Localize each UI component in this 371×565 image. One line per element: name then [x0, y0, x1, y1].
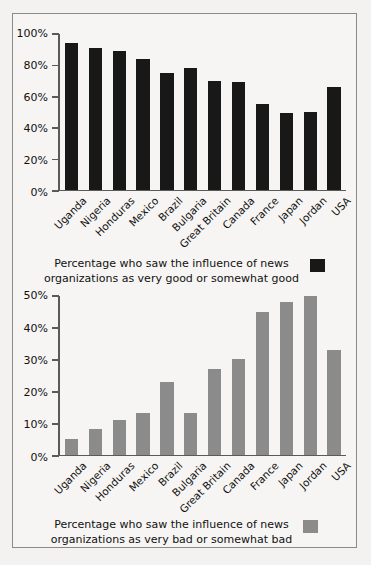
y-tick-label-bad-4: 40%: [24, 322, 48, 333]
y-tick-label-bad-3: 30%: [24, 354, 48, 365]
bar-good-uganda: [65, 43, 78, 189]
bar-slot: [83, 34, 107, 190]
y-tick-label-good-2: 40%: [24, 123, 48, 134]
legend-line2-bad: organizations as very bad or somewhat ba…: [51, 533, 293, 546]
legend-line1-good: Percentage who saw the influence of news: [54, 257, 289, 270]
legend-line2-good: organizations as very good or somewhat g…: [44, 272, 299, 285]
bar-good-jordan: [304, 112, 317, 190]
chart-panel-bad: 0%10%20%30%40%50% UgandaNigeriaHondurasM…: [13, 286, 356, 549]
bar-slot: [155, 296, 179, 455]
bar-slot: [131, 34, 155, 190]
y-tick-good-0: 0%: [52, 190, 59, 192]
bar-bad-france: [256, 312, 269, 455]
bar-slot: [203, 34, 227, 190]
bar-bad-uganda: [65, 439, 78, 455]
bar-slot: [251, 296, 275, 455]
legend-swatch-bad: [303, 520, 318, 533]
x-axis-line-bad: [58, 455, 346, 457]
y-tick-label-bad-5: 50%: [24, 290, 48, 301]
bar-good-great-britain: [208, 81, 221, 190]
x-tick-label-good-usa: USA: [329, 195, 352, 218]
y-tick-good-2: 40%: [52, 127, 59, 129]
y-tick-good-4: 80%: [52, 65, 59, 67]
bar-bad-nigeria: [89, 429, 102, 454]
bar-slot: [227, 34, 251, 190]
legend-bad: Percentage who saw the influence of news…: [13, 518, 356, 548]
bar-slot: [107, 34, 131, 190]
y-tick-label-bad-1: 10%: [24, 419, 48, 430]
bar-group-bad: [60, 296, 347, 455]
bar-slot: [203, 296, 227, 455]
chart-panel-good: 0%20%40%60%80%100% UgandaNigeriaHonduras…: [13, 14, 356, 286]
plot-area-bad: 0%10%20%30%40%50%: [58, 296, 346, 456]
bar-slot: [227, 296, 251, 455]
bar-bad-usa: [327, 350, 340, 455]
y-tick-bad-3: 30%: [52, 359, 59, 361]
bar-bad-japan: [280, 302, 293, 454]
bar-slot: [298, 296, 322, 455]
y-tick-good-3: 60%: [52, 96, 59, 98]
y-tick-bad-5: 50%: [52, 295, 59, 297]
figure-frame: 0%20%40%60%80%100% UgandaNigeriaHonduras…: [12, 13, 357, 548]
bar-slot: [60, 34, 84, 190]
y-tick-good-1: 20%: [52, 159, 59, 161]
bar-bad-jordan: [304, 296, 317, 455]
bar-slot: [155, 34, 179, 190]
bar-slot: [251, 34, 275, 190]
bar-slot: [179, 296, 203, 455]
y-tick-label-good-0: 0%: [31, 186, 48, 197]
bar-good-canada: [232, 82, 245, 189]
bar-slot: [179, 34, 203, 190]
bar-good-brazil: [160, 73, 173, 190]
bar-slot: [83, 296, 107, 455]
y-tick-bad-2: 20%: [52, 391, 59, 393]
legend-swatch-good: [310, 259, 325, 272]
x-axis-line-good: [58, 190, 346, 192]
bar-bad-great-britain: [208, 369, 221, 455]
bar-slot: [298, 34, 322, 190]
bar-bad-mexico: [136, 413, 149, 454]
legend-good: Percentage who saw the influence of news…: [13, 257, 356, 287]
plot-area-good: 0%20%40%60%80%100%: [58, 34, 346, 191]
y-tick-bad-1: 10%: [52, 423, 59, 425]
y-tick-label-good-3: 60%: [24, 91, 48, 102]
y-tick-label-good-1: 20%: [24, 155, 48, 166]
y-tick-bad-0: 0%: [52, 455, 59, 457]
bar-bad-canada: [232, 359, 245, 454]
bar-good-france: [256, 104, 269, 190]
x-tick-label-bad-usa: USA: [329, 460, 352, 483]
figure-container: 0%20%40%60%80%100% UgandaNigeriaHonduras…: [0, 0, 371, 565]
bar-bad-bulgaria: [184, 413, 197, 454]
y-tick-label-good-5: 100%: [17, 28, 48, 39]
bar-slot: [322, 34, 346, 190]
bar-good-bulgaria: [184, 68, 197, 189]
y-tick-label-bad-2: 20%: [24, 387, 48, 398]
y-tick-label-bad-0: 0%: [31, 451, 48, 462]
y-tick-bad-4: 40%: [52, 327, 59, 329]
bar-slot: [322, 296, 346, 455]
bar-slot: [274, 34, 298, 190]
bar-slot: [107, 296, 131, 455]
bar-good-mexico: [136, 59, 149, 190]
bar-bad-brazil: [160, 382, 173, 455]
y-tick-label-good-4: 80%: [24, 59, 48, 70]
legend-line1-bad: Percentage who saw the influence of news: [54, 518, 289, 531]
x-tick-label-group-good: UgandaNigeriaHondurasMexicoBrazilBulgari…: [60, 193, 348, 255]
bar-group-good: [60, 34, 347, 190]
bar-good-nigeria: [89, 48, 102, 190]
bar-good-honduras: [113, 51, 126, 189]
bar-slot: [60, 296, 84, 455]
bar-bad-honduras: [113, 420, 126, 455]
bar-good-japan: [280, 113, 293, 189]
bar-good-usa: [327, 87, 340, 190]
bar-slot: [131, 296, 155, 455]
bar-slot: [274, 296, 298, 455]
x-tick-label-group-bad: UgandaNigeriaHondurasMexicoBrazilBulgari…: [60, 458, 348, 520]
y-tick-good-5: 100%: [52, 33, 59, 35]
